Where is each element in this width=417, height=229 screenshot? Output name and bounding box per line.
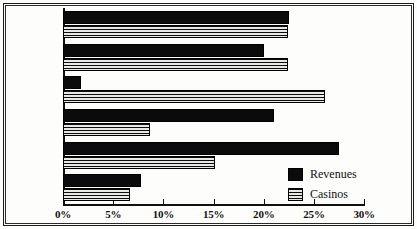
- bar-casinos: [63, 25, 288, 38]
- x-tick-label: 30%: [342, 208, 386, 220]
- x-tick-label: 20%: [242, 208, 286, 220]
- bar-revenues: [63, 174, 141, 187]
- bar-casinos: [63, 58, 288, 71]
- bar-casinos: [63, 156, 215, 169]
- legend-label-casinos: Casinos: [310, 187, 348, 202]
- x-tick-mark: [214, 199, 215, 205]
- bar-revenues: [63, 11, 289, 24]
- bar-casinos: [63, 90, 325, 103]
- legend-label-revenues: Revenues: [310, 167, 357, 182]
- chart-figure: 0%5%10%15%20%25%30% Asia &PacificAfricaN…: [0, 0, 417, 229]
- bar-casinos: [63, 188, 130, 201]
- bar-casinos: [63, 123, 150, 136]
- legend-item-casinos: Casinos: [288, 186, 357, 203]
- x-tick-label: 15%: [192, 208, 236, 220]
- bar-revenues: [63, 44, 264, 57]
- x-tick-label: 25%: [292, 208, 336, 220]
- x-tick-mark: [264, 199, 265, 205]
- legend-swatch-casinos: [288, 188, 303, 201]
- bar-revenues: [63, 142, 339, 155]
- x-tick-mark: [163, 199, 164, 205]
- x-tick-label: 5%: [91, 208, 135, 220]
- x-tick-mark: [364, 199, 365, 205]
- legend-swatch-revenues: [288, 168, 303, 181]
- bar-revenues: [63, 109, 274, 122]
- bar-revenues: [63, 76, 81, 89]
- chart-legend: Revenues Casinos: [288, 166, 357, 206]
- x-tick-label: 10%: [141, 208, 185, 220]
- x-tick-label: 0%: [41, 208, 85, 220]
- legend-item-revenues: Revenues: [288, 166, 357, 183]
